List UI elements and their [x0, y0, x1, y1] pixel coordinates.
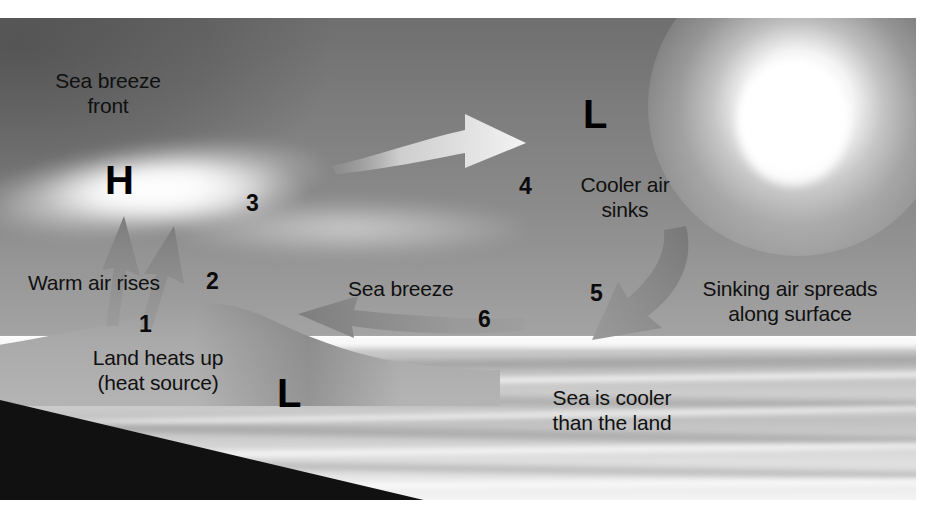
step-number-5: 5 — [590, 280, 603, 307]
step-number-3: 3 — [246, 190, 259, 217]
pressure-marker-low-sea: L — [277, 373, 301, 413]
cloud-haze — [180, 168, 600, 288]
label-cooler-air-sinks: Cooler air sinks — [550, 172, 700, 222]
label-sinking-air-spreads: Sinking air spreads along surface — [670, 276, 910, 326]
label-land-heats-up: Land heats up (heat source) — [58, 345, 258, 395]
pressure-marker-low-sky: L — [583, 94, 607, 134]
land-dark-foreground — [0, 378, 520, 500]
label-sea-breeze-front: Sea breeze front — [28, 68, 188, 118]
label-sea-breeze: Sea breeze — [348, 276, 453, 301]
pressure-marker-high-land: H — [105, 160, 134, 200]
step-number-1: 1 — [139, 311, 152, 338]
upper-return-flow-arrow — [330, 96, 540, 176]
sun-icon — [737, 60, 849, 186]
label-sea-is-cooler: Sea is cooler than the land — [502, 385, 722, 435]
step-number-4: 4 — [519, 173, 532, 200]
sea-breeze-diagram: Sea breeze front H L L 3 4 Cooler air si… — [0, 18, 916, 500]
step-number-2: 2 — [206, 268, 219, 295]
step-number-6: 6 — [478, 306, 491, 333]
label-warm-air-rises: Warm air rises — [28, 270, 160, 295]
